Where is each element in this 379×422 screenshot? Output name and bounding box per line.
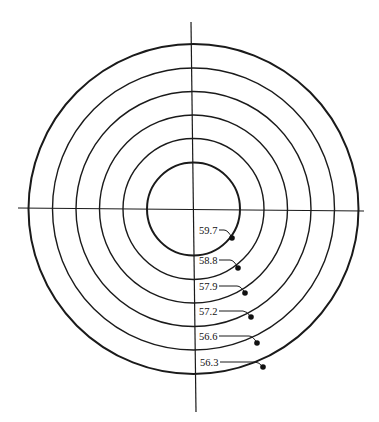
horizontal-axis (18, 208, 364, 211)
ring-marker-dot (235, 265, 241, 271)
ring-marker-dot (248, 314, 254, 320)
ring-label: 56.3 (200, 357, 218, 368)
ring-label: 57.2 (199, 306, 217, 317)
ring-label: 56.6 (199, 331, 217, 342)
ring-label: 58.8 (199, 255, 217, 266)
ring-label: 57.9 (199, 281, 217, 292)
ring-labels-group: 59.758.857.957.256.656.3 (199, 225, 266, 370)
concentric-ring-diagram: 59.758.857.957.256.656.3 (0, 0, 379, 422)
leader-line (219, 260, 238, 268)
ring-marker-dot (242, 290, 248, 296)
leader-line (219, 336, 257, 343)
ring-label: 59.7 (199, 225, 217, 236)
vertical-axis (191, 22, 196, 412)
ring-marker-dot (260, 364, 266, 370)
ring-marker-dot (229, 235, 235, 241)
ring-marker-dot (254, 340, 260, 346)
